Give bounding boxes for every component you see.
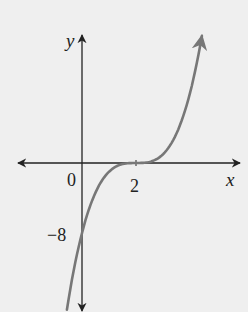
y-tick-label-neg8: −8 [47,225,66,245]
origin-label: 0 [67,170,76,190]
cubic-curve [67,36,202,310]
cubic-graph: y x 0 2 −8 [0,0,248,312]
y-axis-label: y [64,30,75,51]
x-axis-label: x [225,169,235,190]
x-tick-label-2: 2 [130,176,139,196]
